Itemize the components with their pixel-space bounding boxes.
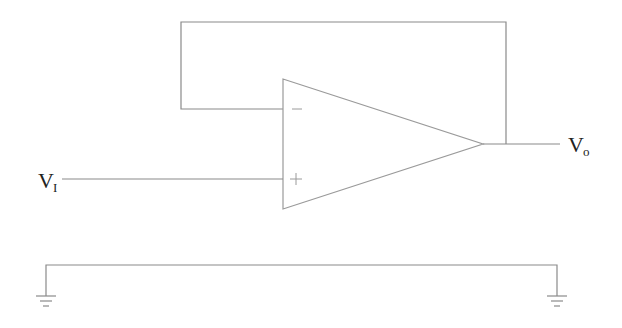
ground-icon-right <box>547 296 567 306</box>
circuit-diagram: V I V o <box>0 0 622 328</box>
input-voltage-label: V I <box>38 168 57 195</box>
svg-text:V: V <box>568 132 584 157</box>
feedback-wire <box>181 22 506 144</box>
svg-text:o: o <box>583 144 590 159</box>
noninverting-input-sign <box>290 173 302 185</box>
svg-text:V: V <box>38 168 54 193</box>
ground-icon-left <box>36 296 56 306</box>
ground-rail <box>46 265 557 296</box>
output-voltage-label: V o <box>568 132 590 159</box>
svg-text:I: I <box>53 180 57 195</box>
op-amp-triangle <box>283 79 483 209</box>
